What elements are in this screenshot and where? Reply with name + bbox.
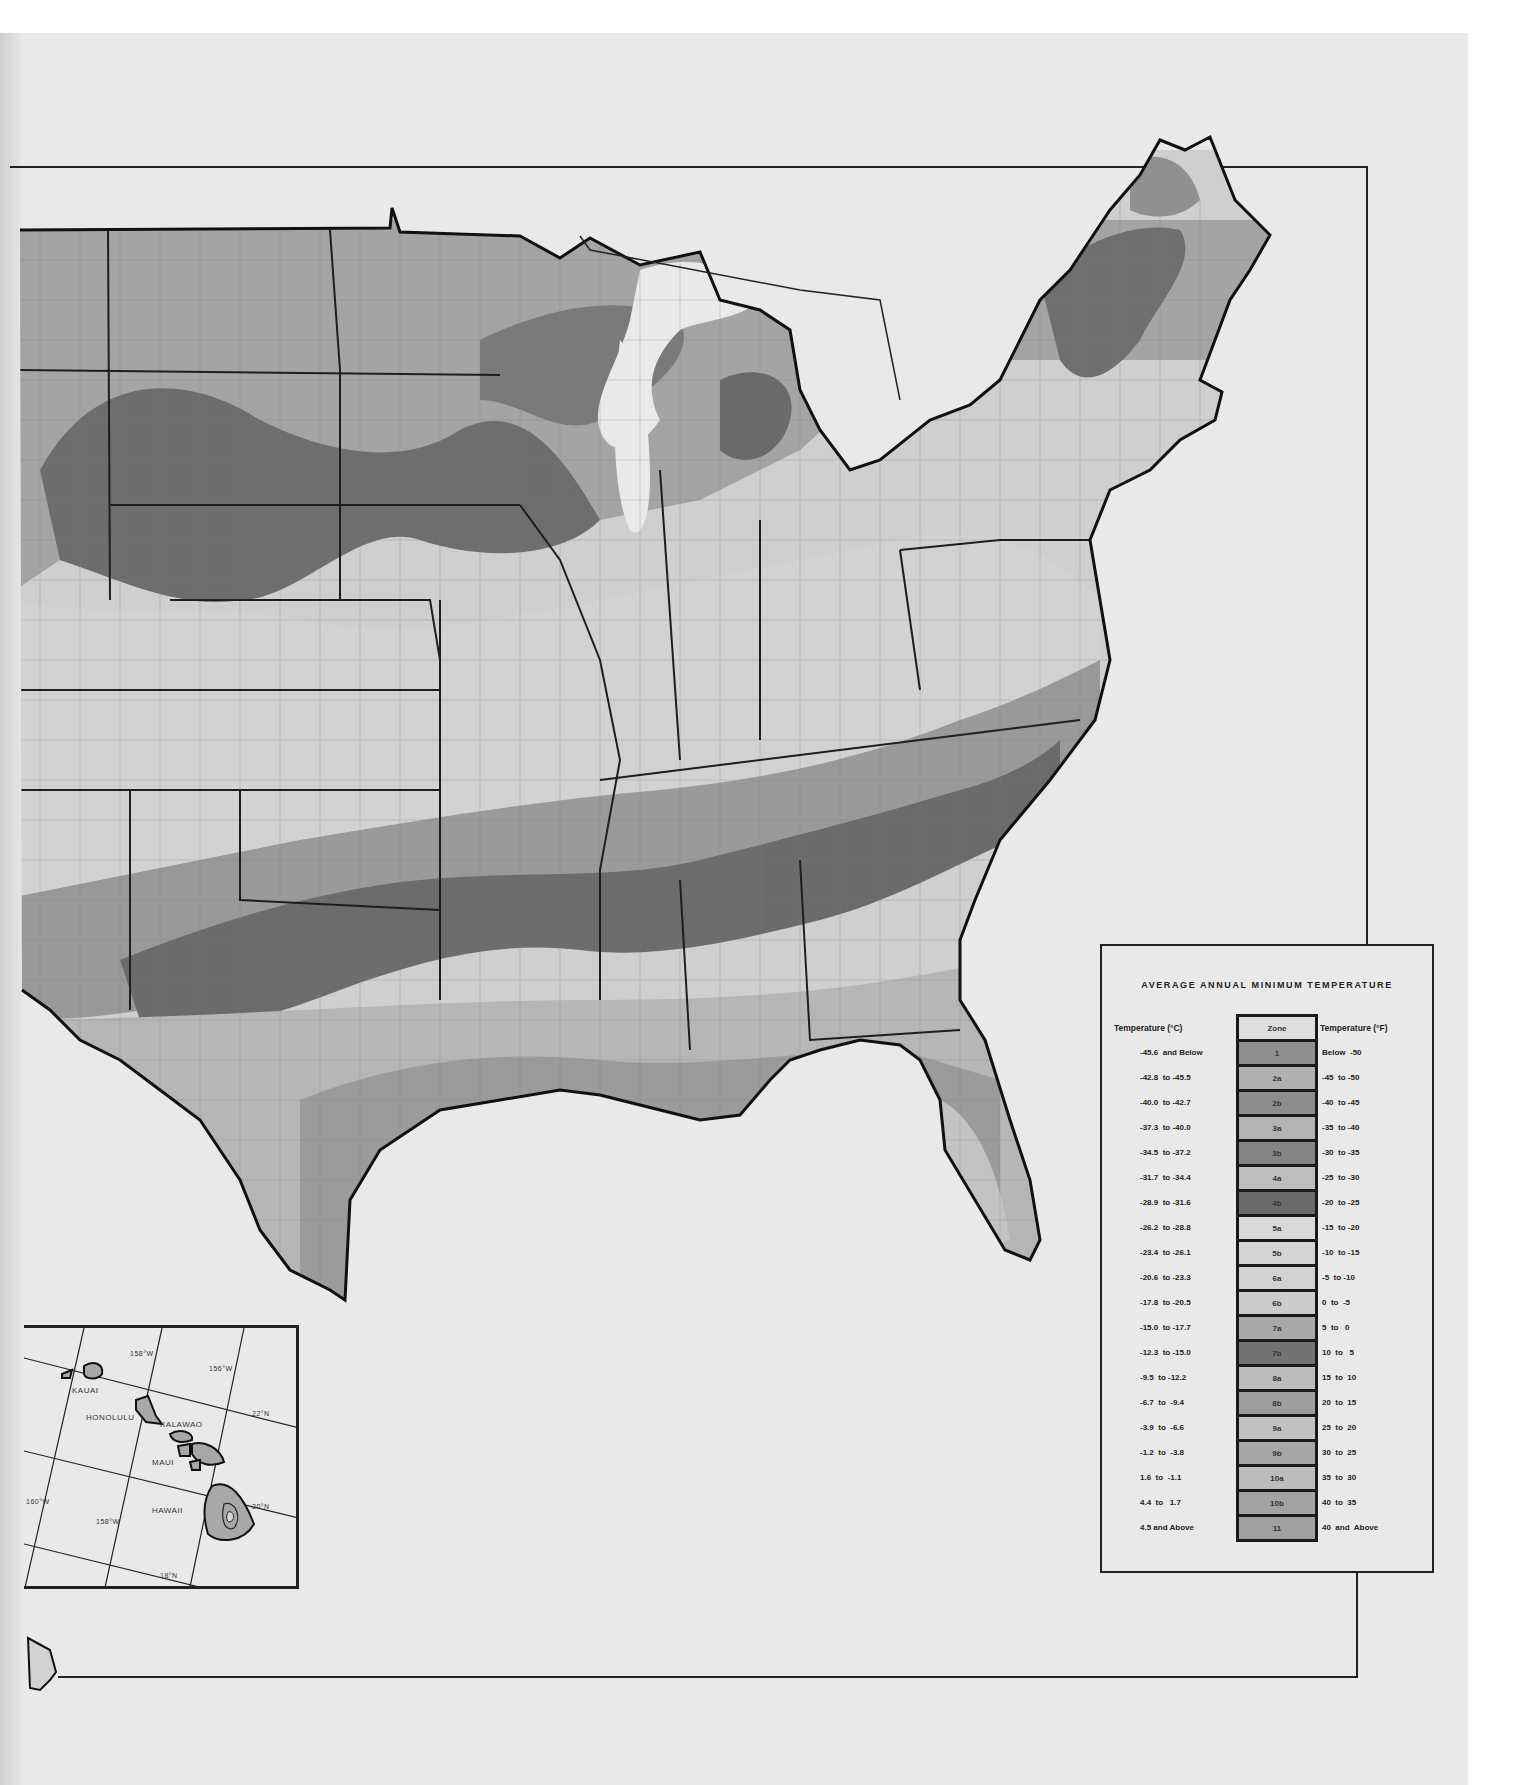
celsius-range: -37.3 to -40.0 (1140, 1123, 1191, 1132)
zone-swatch-4b: 4b (1239, 1192, 1315, 1214)
legend-header-fahrenheit: Temperature (°F) (1320, 1023, 1430, 1033)
celsius-range: -42.8 to -45.5 (1140, 1073, 1191, 1082)
fahrenheit-range: 35 to 30 (1322, 1473, 1356, 1482)
fahrenheit-range: -5 to -10 (1322, 1273, 1355, 1282)
fahrenheit-range: 5 to 0 (1322, 1323, 1350, 1332)
fahrenheit-range: 10 to 5 (1322, 1348, 1354, 1357)
zone-swatch-7b: 7b (1239, 1342, 1315, 1364)
fahrenheit-range: 15 to 10 (1322, 1373, 1356, 1382)
zone-swatch-11: 11 (1239, 1517, 1315, 1539)
celsius-range: -15.0 to -17.7 (1140, 1323, 1191, 1332)
celsius-range: -45.6 and Below (1140, 1048, 1203, 1057)
celsius-range: 4.4 to 1.7 (1140, 1498, 1181, 1507)
fahrenheit-range: 20 to 15 (1322, 1398, 1356, 1407)
fahrenheit-range: -15 to -20 (1322, 1223, 1359, 1232)
zone-swatch-9b: 9b (1239, 1442, 1315, 1464)
hardiness-zone-legend: AVERAGE ANNUAL MINIMUM TEMPERATURE Tempe… (1100, 944, 1434, 1573)
fahrenheit-range: -20 to -25 (1322, 1198, 1359, 1207)
celsius-range: -28.9 to -31.6 (1140, 1198, 1191, 1207)
label-hawaii: HAWAII (152, 1506, 183, 1515)
zone-swatch-8b: 8b (1239, 1392, 1315, 1414)
zone-swatch-2a: 2a (1239, 1067, 1315, 1089)
celsius-range: -23.4 to -26.1 (1140, 1248, 1191, 1257)
zone-swatch-6b: 6b (1239, 1292, 1315, 1314)
hawaii-inset: KAUAI HONOLULU KALAWAO MAUI HAWAII 158°W… (24, 1325, 299, 1589)
zone-swatch-10a: 10a (1239, 1467, 1315, 1489)
graticule-label-20n: 20°N (252, 1503, 270, 1510)
celsius-range: -31.7 to -34.4 (1140, 1173, 1191, 1182)
zone-swatch-9a: 9a (1239, 1417, 1315, 1439)
legend-header-celsius: Temperature (°C) (1114, 1023, 1212, 1033)
zone-swatch-1: 1 (1239, 1042, 1315, 1064)
celsius-range: -20.6 to -23.3 (1140, 1273, 1191, 1282)
fahrenheit-range: 40 to 35 (1322, 1498, 1356, 1507)
fahrenheit-range: -35 to -40 (1322, 1123, 1359, 1132)
celsius-range: -40.0 to -42.7 (1140, 1098, 1191, 1107)
celsius-range: -26.2 to -28.8 (1140, 1223, 1191, 1232)
label-honolulu: HONOLULU (86, 1413, 134, 1422)
fahrenheit-range: 0 to -5 (1322, 1298, 1350, 1307)
fahrenheit-range: -10 to -15 (1322, 1248, 1359, 1257)
label-kalawao: KALAWAO (160, 1420, 202, 1429)
fahrenheit-range: Below -50 (1322, 1048, 1362, 1057)
fahrenheit-range: -40 to -45 (1322, 1098, 1359, 1107)
zone-swatch-5a: 5a (1239, 1217, 1315, 1239)
fahrenheit-range: -45 to -50 (1322, 1073, 1359, 1082)
graticule-label-156w: 156°W (209, 1365, 233, 1372)
zone-swatch-3b: 3b (1239, 1142, 1315, 1164)
celsius-range: 1.6 to -1.1 (1140, 1473, 1181, 1482)
zone-swatch-10b: 10b (1239, 1492, 1315, 1514)
celsius-range: -34.5 to -37.2 (1140, 1148, 1191, 1157)
graticule-label-18n: 18°N (160, 1572, 178, 1579)
celsius-range: 4.5 and Above (1140, 1523, 1194, 1532)
celsius-range: -1.2 to -3.8 (1140, 1448, 1184, 1457)
zone-swatch-8a: 8a (1239, 1367, 1315, 1389)
fahrenheit-range: 25 to 20 (1322, 1423, 1356, 1432)
celsius-range: -3.9 to -6.6 (1140, 1423, 1184, 1432)
graticule-label-158w-top: 158°W (130, 1350, 154, 1357)
graticule-label-158w-bottom: 158°W (96, 1518, 120, 1525)
legend-title: AVERAGE ANNUAL MINIMUM TEMPERATURE (1102, 980, 1432, 990)
fahrenheit-range: 40 and Above (1322, 1523, 1378, 1532)
fahrenheit-range: 30 to 25 (1322, 1448, 1356, 1457)
fahrenheit-range: -30 to -35 (1322, 1148, 1359, 1157)
zone-header: Zone (1239, 1017, 1315, 1039)
zone-swatch-5b: 5b (1239, 1242, 1315, 1264)
zone-swatch-4a: 4a (1239, 1167, 1315, 1189)
celsius-range: -6.7 to -9.4 (1140, 1398, 1184, 1407)
label-kauai: KAUAI (72, 1386, 99, 1395)
label-maui: MAUI (152, 1458, 174, 1467)
zone-swatch-2b: 2b (1239, 1092, 1315, 1114)
graticule-label-160w: 160°W (26, 1498, 50, 1505)
zone-swatch-column: Zone 1 2a 2b 3a 3b 4a 4b 5a 5b 6a 6b 7a … (1236, 1014, 1318, 1542)
zone-swatch-6a: 6a (1239, 1267, 1315, 1289)
graticule-label-22n: 22°N (252, 1410, 270, 1417)
zone-swatch-7a: 7a (1239, 1317, 1315, 1339)
celsius-range: -17.8 to -20.5 (1140, 1298, 1191, 1307)
zone-swatch-3a: 3a (1239, 1117, 1315, 1139)
celsius-range: -9.5 to -12.2 (1140, 1373, 1186, 1382)
celsius-range: -12.3 to -15.0 (1140, 1348, 1191, 1357)
fahrenheit-range: -25 to -30 (1322, 1173, 1359, 1182)
